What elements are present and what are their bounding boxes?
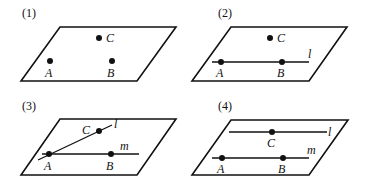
panel-label: (2) [218, 6, 232, 20]
point-a-label: A [43, 159, 52, 173]
panel-3: (3) l C m A B [21, 99, 176, 175]
point-c-label: C [82, 123, 91, 137]
point-a-label: A [44, 66, 53, 80]
point-b-label: B [277, 66, 285, 80]
point-c [96, 128, 102, 134]
point-b [109, 58, 115, 64]
panel-4: (4) l C m A B [192, 99, 348, 176]
point-c [96, 35, 102, 41]
plane-diagrams: (1) C A B (2) C l A B (3) l C m A B [0, 0, 366, 186]
panel-label: (4) [218, 99, 232, 113]
line-m-label: m [120, 139, 129, 153]
panel-2: (2) C l A B [192, 6, 347, 81]
point-a [218, 59, 224, 65]
point-b [280, 155, 286, 161]
line-m-label: m [307, 143, 316, 157]
point-a [46, 151, 52, 157]
point-a-label: A [216, 162, 225, 176]
point-a [219, 155, 225, 161]
point-b-label: B [278, 162, 286, 176]
point-b-label: B [107, 66, 115, 80]
point-c [267, 35, 273, 41]
point-c-label: C [106, 31, 115, 45]
point-c-label: C [267, 136, 276, 150]
panel-1: (1) C A B [21, 6, 176, 81]
point-b [279, 59, 285, 65]
line-l-label: l [328, 125, 332, 139]
point-c-label: C [277, 31, 286, 45]
point-a-label: A [215, 66, 224, 80]
panel-label: (1) [22, 6, 36, 20]
point-b [108, 151, 114, 157]
point-b-label: B [106, 159, 114, 173]
panel-label: (3) [22, 99, 36, 113]
line-l-label: l [308, 47, 312, 61]
point-c [269, 129, 275, 135]
point-a [47, 58, 53, 64]
